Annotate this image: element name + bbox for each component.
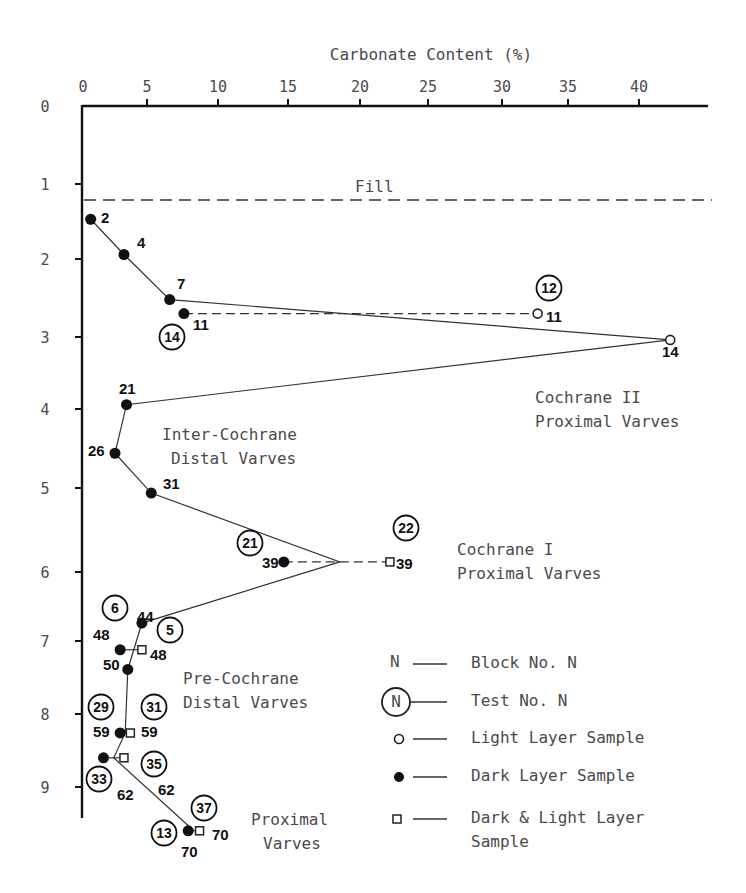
light-sample-marker xyxy=(533,309,542,318)
test-number-label: 22 xyxy=(398,520,414,536)
x-tick-label: 25 xyxy=(419,78,437,96)
test-number-label: 12 xyxy=(541,280,557,296)
dark-sample-marker xyxy=(178,308,189,319)
block-number-label: 44 xyxy=(137,608,154,625)
y-tick-label: 8 xyxy=(40,706,49,724)
legend-item-dark-light: Dark & Light Layer Sample xyxy=(393,808,645,851)
block-number-label: 7 xyxy=(177,275,185,292)
y-tick-label: 4 xyxy=(40,401,49,419)
fill-label: Fill xyxy=(355,177,394,196)
dark-sample-marker xyxy=(118,249,129,260)
dark-sample-marker xyxy=(122,664,133,675)
legend-item-light: Light Layer Sample xyxy=(395,728,645,747)
x-tick-label: 0 xyxy=(78,78,87,96)
block-number-label: 59 xyxy=(141,723,158,740)
dark-sample-marker xyxy=(278,556,289,567)
legend-item-test: N Test No. N xyxy=(382,688,567,716)
test-number-label: 37 xyxy=(196,800,212,816)
x-tick-label: 10 xyxy=(209,78,227,96)
x-tick-label: 20 xyxy=(351,78,369,96)
open-circle-icon xyxy=(395,735,404,744)
proximal-label-line1: Proximal xyxy=(251,810,328,829)
dark-sample-marker xyxy=(115,727,126,738)
test-number-label: 13 xyxy=(156,825,172,841)
legend-label-dark-light-1: Dark & Light Layer xyxy=(471,808,645,827)
dark-sample-marker xyxy=(183,825,194,836)
test-number-label: 31 xyxy=(146,699,162,715)
test-number-label: 33 xyxy=(91,771,107,787)
block-number-label: 50 xyxy=(103,656,120,673)
dark-sample-marker xyxy=(164,294,175,305)
inter-cochrane-label-line2: Distal Varves xyxy=(171,449,296,468)
y-tick-label: 9 xyxy=(40,779,49,797)
y-tick-label: 1 xyxy=(40,176,49,194)
legend-item-dark: Dark Layer Sample xyxy=(394,766,635,785)
block-labels: 247111114212631393944484850595962627070 xyxy=(88,209,679,860)
dark-sample-marker xyxy=(121,399,132,410)
dark-sample-marker xyxy=(85,214,96,225)
dark-light-sample-marker xyxy=(138,646,146,654)
test-number-label: 21 xyxy=(242,535,258,551)
dark-light-sample-marker xyxy=(126,729,134,737)
legend-label-dark-light-2: Sample xyxy=(471,832,529,851)
test-number-label: 6 xyxy=(111,600,119,616)
proximal-label-line2: Varves xyxy=(263,834,321,853)
block-number-label: 2 xyxy=(101,209,109,226)
test-number-badge: 21 xyxy=(238,531,263,556)
block-number-label: 11 xyxy=(193,316,209,333)
test-number-label: 5 xyxy=(166,622,174,638)
test-circle-symbol-text: N xyxy=(391,692,401,711)
block-number-label: 31 xyxy=(163,475,180,492)
block-number-label: 14 xyxy=(662,343,679,360)
dark-sample-marker xyxy=(98,752,109,763)
legend-label-test: Test No. N xyxy=(471,691,567,710)
test-number-badge: 5 xyxy=(158,618,183,643)
inter-cochrane-label-line1: Inter-Cochrane xyxy=(162,425,297,444)
block-number-label: 48 xyxy=(150,646,167,663)
y-tick-label: 6 xyxy=(40,564,49,582)
y-ticks: 0123456789 xyxy=(40,98,82,797)
test-number-label: 35 xyxy=(146,756,162,772)
test-number-label: 14 xyxy=(164,329,180,345)
x-tick-label: 15 xyxy=(279,78,297,96)
test-number-badge: 33 xyxy=(87,767,112,792)
test-number-badge: 12 xyxy=(537,276,562,301)
x-tick-label: 40 xyxy=(630,78,648,96)
test-number-badge: 22 xyxy=(394,516,419,541)
test-number-badge: 29 xyxy=(89,695,114,720)
block-number-label: 48 xyxy=(93,626,110,643)
block-number-label: 62 xyxy=(117,786,134,803)
block-number-label: 39 xyxy=(396,555,413,572)
x-axis-title: Carbonate Content (%) xyxy=(330,45,532,64)
dark-sample-marker xyxy=(146,488,157,499)
x-tick-label: 35 xyxy=(559,78,577,96)
block-number-label: 39 xyxy=(262,554,279,571)
dark-light-sample-marker xyxy=(196,827,204,835)
y-tick-label: 5 xyxy=(40,480,49,498)
block-number-label: 70 xyxy=(212,826,229,843)
legend-label-block: Block No. N xyxy=(471,653,577,672)
block-number-label: 21 xyxy=(119,380,136,397)
y-tick-label: 3 xyxy=(40,329,49,347)
test-number-badge: 13 xyxy=(152,821,177,846)
dark-sample-marker xyxy=(110,448,121,459)
filled-circle-icon xyxy=(394,772,404,782)
y-tick-label: 0 xyxy=(40,98,49,116)
pre-cochrane-label-line1: Pre-Cochrane xyxy=(183,669,299,688)
dark-sample-marker xyxy=(115,644,126,655)
open-square-icon xyxy=(393,815,401,823)
block-number-label: 26 xyxy=(88,442,105,459)
cochrane1-label-line2: Proximal Varves xyxy=(457,564,602,583)
y-tick-label: 2 xyxy=(40,251,49,269)
test-number-label: 29 xyxy=(93,699,109,715)
block-number-label: 62 xyxy=(158,781,175,798)
cochrane2-label-line1: Cochrane II xyxy=(535,388,641,407)
x-ticks: 0510152025303540 xyxy=(78,78,648,106)
block-number-symbol: N xyxy=(390,652,400,671)
carbonate-chart: Carbonate Content (%) 0510152025303540 0… xyxy=(0,0,746,893)
test-number-badge: 6 xyxy=(103,596,128,621)
dark-light-sample-marker xyxy=(120,754,128,762)
x-tick-label: 30 xyxy=(493,78,511,96)
block-number-label: 70 xyxy=(181,843,198,860)
cochrane2-label-line2: Proximal Varves xyxy=(535,412,680,431)
